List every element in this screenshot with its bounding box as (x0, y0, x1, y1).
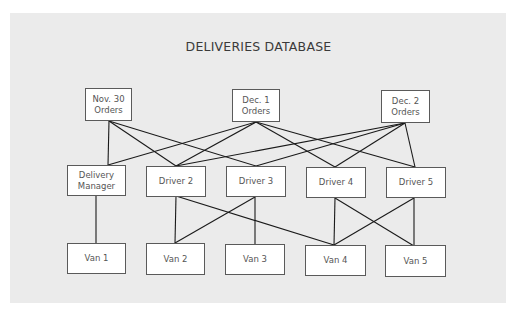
edge-nov30-d2 (109, 121, 176, 166)
node-label: Van 2 (164, 254, 188, 265)
node-label: Driver 5 (399, 177, 433, 188)
node-label-line2: Orders (94, 105, 123, 115)
node-van-5: Van 5 (385, 245, 446, 277)
node-label: Driver 2 (159, 176, 193, 187)
node-label: Van 3 (243, 254, 267, 265)
node-van-3: Van 3 (225, 244, 285, 275)
edge-dec2-d3 (256, 123, 405, 166)
node-label-line1: Delivery (79, 170, 114, 180)
node-van-2: Van 2 (146, 243, 205, 275)
node-label: Van 4 (324, 255, 348, 266)
node-label: Van 1 (85, 253, 109, 264)
node-dec1-orders: Dec. 1Orders (232, 89, 280, 122)
node-driver-4: Driver 4 (306, 167, 366, 198)
node-label-line2: Orders (391, 107, 420, 117)
node-driver-2: Driver 2 (146, 166, 206, 197)
edge-d4-v4 (334, 198, 335, 245)
node-dec2-orders: Dec. 2Orders (381, 90, 430, 123)
node-label-line1: Nov. 30 (92, 94, 124, 104)
node-nov30-orders: Nov. 30Orders (85, 88, 132, 121)
node-label: Van 5 (404, 256, 428, 267)
node-label-line2: Manager (78, 181, 115, 191)
node-delivery-manager: DeliveryManager (67, 165, 126, 196)
node-driver-5: Driver 5 (386, 167, 446, 198)
edge-d2-v2 (175, 196, 176, 243)
edge-dec1-dm (108, 122, 256, 165)
edge-dec1-d4 (256, 122, 335, 167)
node-label: Driver 3 (239, 176, 273, 187)
edge-d3-v2 (175, 197, 255, 243)
node-van-1: Van 1 (67, 243, 126, 274)
node-driver-3: Driver 3 (226, 166, 286, 197)
node-label: Driver 4 (319, 177, 353, 188)
edge-dec1-d5 (256, 122, 415, 167)
edge-nov30-dm (108, 121, 109, 165)
node-van-4: Van 4 (305, 245, 366, 276)
edge-dec1-d2 (176, 122, 256, 166)
node-label-line1: Dec. 1 (242, 95, 269, 105)
node-label-line2: Orders (242, 106, 271, 116)
node-label-line1: Dec. 2 (392, 96, 419, 106)
edge-dec2-d5 (405, 123, 415, 167)
